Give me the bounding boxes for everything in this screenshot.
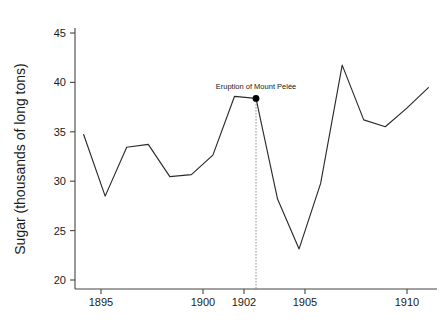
- x-tick-label-1900: 1900: [191, 296, 215, 308]
- x-tick-label-1895: 1895: [89, 296, 113, 308]
- y-tick-label-30: 30: [54, 175, 66, 187]
- y-tick-label-20: 20: [54, 274, 66, 286]
- y-axis-title: Sugar (thousands of long tons): [12, 63, 28, 254]
- sugar-production-line: [84, 65, 429, 249]
- y-tick-label-25: 25: [54, 225, 66, 237]
- y-axis-ticks: 45 40 35 30 25 20: [54, 27, 75, 286]
- x-tick-label-1910: 1910: [395, 296, 419, 308]
- line-chart-canvas: Sugar (thousands of long tons) 45 40 35 …: [0, 0, 445, 328]
- y-tick-label-35: 35: [54, 126, 66, 138]
- annotation-label-eruption: Eruption of Mount Pelée: [216, 82, 296, 91]
- y-tick-label-45: 45: [54, 27, 66, 39]
- x-tick-label-1902: 1902: [232, 296, 256, 308]
- x-tick-label-1905: 1905: [293, 296, 317, 308]
- y-tick-label-40: 40: [54, 76, 66, 88]
- x-axis-ticks: 1895 1900 1902 1905 1910: [89, 289, 419, 308]
- annotation-marker-dot: [253, 95, 260, 102]
- chart-figure: Sugar (thousands of long tons) 45 40 35 …: [0, 0, 445, 328]
